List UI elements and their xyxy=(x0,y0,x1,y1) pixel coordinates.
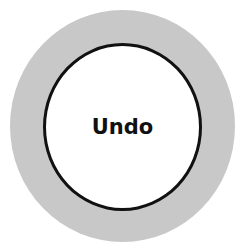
undo-button[interactable]: Undo xyxy=(43,43,202,211)
undo-button-label: Undo xyxy=(92,115,153,139)
